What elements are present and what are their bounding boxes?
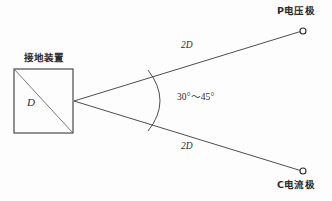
grounding-measurement-diagram: 接地装置 D 2D 2D 30°～45° P电压极 C电流极 [0, 0, 332, 201]
voltage-pole-label: P电压极 [277, 6, 315, 16]
diagram-background [0, 0, 332, 201]
upper-distance-label: 2D [181, 41, 193, 51]
device-diagonal-label: D [27, 97, 35, 108]
ground-device-label: 接地装置 [14, 53, 74, 63]
current-pole-marker-icon [300, 168, 306, 174]
angle-range-label: 30°～45° [177, 93, 214, 103]
diagram-canvas [0, 0, 332, 201]
current-pole-label: C电流极 [277, 180, 315, 190]
lower-distance-label: 2D [181, 142, 193, 152]
voltage-pole-marker-icon [300, 28, 306, 34]
